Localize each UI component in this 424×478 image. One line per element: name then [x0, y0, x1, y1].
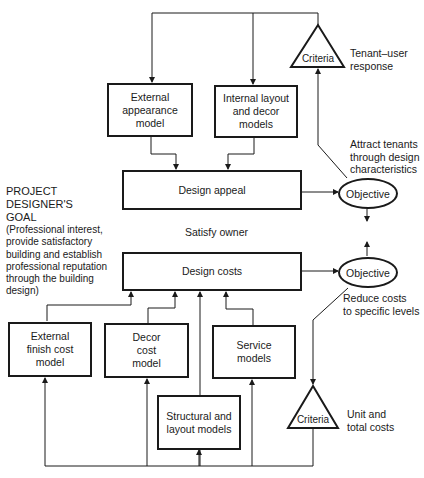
satisfy-owner-label: Satisfy owner [185, 226, 248, 239]
criteria-bottom-label: Criteria [291, 414, 335, 425]
objective-top-label: Objective [346, 188, 390, 200]
design-appeal-label: Design appeal [178, 184, 245, 197]
structural-layout-models-label: Structural and layout models [163, 410, 235, 436]
external-appearance-model-label: External appearance model [115, 91, 185, 130]
criteria-top-label: Criteria [296, 53, 340, 64]
design-costs-box: Design costs [122, 252, 302, 291]
design-appeal-box: Design appeal [122, 170, 302, 210]
objective-ellipse-bottom: Objective [338, 257, 398, 288]
external-finish-cost-model-box: External finish cost model [8, 322, 92, 377]
structural-layout-models-box: Structural and layout models [157, 395, 241, 450]
unit-total-costs-label: Unit and total costs [347, 408, 394, 433]
attract-tenants-label: Attract tenants through design character… [350, 138, 419, 176]
design-costs-label: Design costs [182, 265, 242, 278]
service-models-box: Service models [212, 325, 296, 379]
external-appearance-model-box: External appearance model [107, 83, 193, 137]
tenant-user-response-label: Tenant–user response [350, 47, 408, 72]
decor-cost-model-label: Decor cost model [127, 331, 167, 370]
goal-description: (Professional interest, provide satisfac… [6, 224, 107, 298]
goal-title: PROJECT DESIGNER'S GOAL [6, 185, 73, 224]
objective-ellipse-top: Objective [338, 178, 398, 209]
reduce-costs-label: Reduce costs to specific levels [343, 292, 419, 317]
objective-bottom-label: Objective [346, 267, 390, 279]
external-finish-cost-model-label: External finish cost model [25, 330, 75, 369]
internal-layout-decor-models-box: Internal layout and decor models [214, 85, 298, 138]
internal-layout-decor-models-label: Internal layout and decor models [219, 92, 293, 131]
decor-cost-model-box: Decor cost model [104, 323, 189, 378]
service-models-label: Service models [229, 339, 279, 365]
